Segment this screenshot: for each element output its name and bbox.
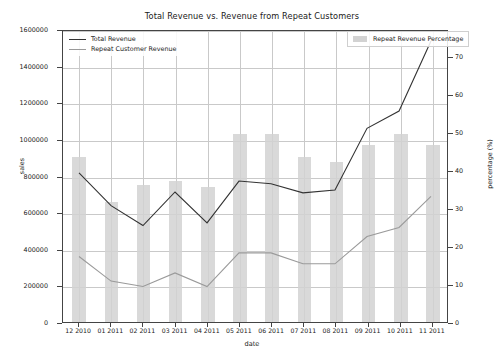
y-tick-label-left: 1200000 xyxy=(0,99,48,107)
legend-lines: Total Revenue Repeat Customer Revenue xyxy=(66,32,180,56)
y-tick-mark-right xyxy=(448,57,453,58)
x-tick-mark xyxy=(142,323,143,327)
y-tick-mark-left xyxy=(57,323,62,324)
x-tick-mark xyxy=(335,323,336,327)
legend-bars: Repeat Revenue Percentage xyxy=(347,31,469,47)
line-total-revenue xyxy=(79,41,431,226)
y-axis-label-left: sales xyxy=(18,136,26,196)
y-tick-mark-right xyxy=(448,209,453,210)
legend-label-repeat-customer-revenue: Repeat Customer Revenue xyxy=(91,45,176,53)
y-tick-label-right: 20 xyxy=(455,243,495,251)
plot-area xyxy=(62,30,448,323)
x-tick-mark xyxy=(368,323,369,327)
x-axis-label: date xyxy=(0,340,504,348)
y-tick-mark-right xyxy=(448,285,453,286)
x-tick-mark xyxy=(110,323,111,327)
x-tick-mark xyxy=(271,323,272,327)
y-tick-label-right: 10 xyxy=(455,281,495,289)
legend-item-repeat-customer-revenue: Repeat Customer Revenue xyxy=(69,44,176,54)
x-tick-mark xyxy=(207,323,208,327)
y-tick-label-right: 60 xyxy=(455,91,495,99)
y-tick-label-left: 1400000 xyxy=(0,63,48,71)
x-tick-mark xyxy=(239,323,240,327)
y-tick-label-left: 400000 xyxy=(0,246,48,254)
y-tick-mark-right xyxy=(448,323,453,324)
y-axis-label-right: percentage (%) xyxy=(486,129,494,199)
chart-figure: Total Revenue vs. Revenue from Repeat Cu… xyxy=(0,0,504,361)
legend-line-swatch-total xyxy=(69,39,86,40)
chart-title: Total Revenue vs. Revenue from Repeat Cu… xyxy=(0,11,504,21)
y-tick-mark-right xyxy=(448,133,453,134)
legend-line-swatch-repeat xyxy=(69,49,86,50)
legend-label-total-revenue: Total Revenue xyxy=(91,35,136,43)
y-tick-label-right: 50 xyxy=(455,129,495,137)
x-tick-label: 11 2011 xyxy=(409,327,455,334)
legend-label-repeat-revenue-percentage: Repeat Revenue Percentage xyxy=(373,35,463,43)
y-tick-label-right: 0 xyxy=(455,319,495,327)
line-series-group xyxy=(63,31,447,322)
legend-bar-swatch xyxy=(353,36,367,42)
x-tick-mark xyxy=(303,323,304,327)
y-tick-mark-right xyxy=(448,95,453,96)
y-tick-label-right: 30 xyxy=(455,205,495,213)
y-tick-label-left: 800000 xyxy=(0,173,48,181)
x-tick-mark xyxy=(432,323,433,327)
line-repeat-customer-revenue xyxy=(79,196,431,286)
y-tick-label-left: 0 xyxy=(0,319,48,327)
y-tick-label-left: 1000000 xyxy=(0,136,48,144)
y-tick-label-left: 600000 xyxy=(0,209,48,217)
y-tick-label-right: 40 xyxy=(455,167,495,175)
legend-item-total-revenue: Total Revenue xyxy=(69,34,176,44)
x-tick-mark xyxy=(175,323,176,327)
x-tick-mark xyxy=(78,323,79,327)
x-tick-mark xyxy=(400,323,401,327)
y-tick-mark-right xyxy=(448,247,453,248)
y-tick-label-right: 70 xyxy=(455,53,495,61)
y-tick-mark-right xyxy=(448,171,453,172)
y-tick-label-left: 200000 xyxy=(0,282,48,290)
y-tick-label-left: 1600000 xyxy=(0,26,48,34)
